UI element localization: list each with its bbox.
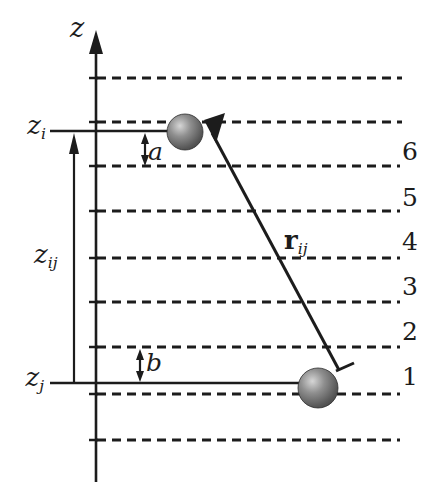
layer-number-6: 6 (398, 139, 422, 164)
layer-number-1: 1 (398, 364, 422, 389)
b-arrowhead-down-icon (136, 371, 144, 382)
zi-label: zi (16, 112, 46, 142)
a-label: a (148, 139, 163, 164)
particle-j-sphere (298, 368, 338, 408)
layer-number-2: 2 (398, 319, 422, 344)
z-axis-arrowhead-icon (89, 30, 103, 54)
b-measure-arrow (136, 349, 144, 382)
rij-arrowhead-icon (204, 113, 225, 143)
layer-number-5: 5 (398, 185, 422, 210)
zij-label: zij (34, 241, 58, 271)
rij-label: rij (284, 227, 308, 257)
zj-label: zj (14, 364, 44, 394)
b-arrowhead-up-icon (136, 349, 144, 360)
rij-vector (204, 113, 354, 371)
layer-number-3: 3 (398, 274, 422, 299)
zij-arrowhead-icon (69, 133, 79, 154)
physics-diagram: z zi zij zj a b rij 6 5 4 3 2 1 (0, 0, 431, 501)
z-axis-label: z (70, 14, 84, 41)
b-label: b (146, 350, 162, 375)
diagram-canvas (0, 0, 431, 501)
layer-number-4: 4 (398, 229, 422, 254)
particle-i-sphere (167, 114, 203, 150)
